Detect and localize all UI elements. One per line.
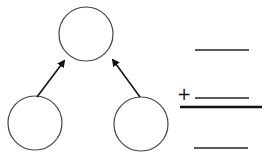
part-right-circle[interactable] xyxy=(114,97,168,151)
whole-circle[interactable] xyxy=(59,7,113,61)
plus-operator: + xyxy=(177,86,191,103)
arrow-left-to-whole xyxy=(37,61,64,97)
arrow-right-to-whole xyxy=(113,60,140,97)
part-left-circle[interactable] xyxy=(8,96,62,150)
number-bond-diagram xyxy=(0,0,266,165)
